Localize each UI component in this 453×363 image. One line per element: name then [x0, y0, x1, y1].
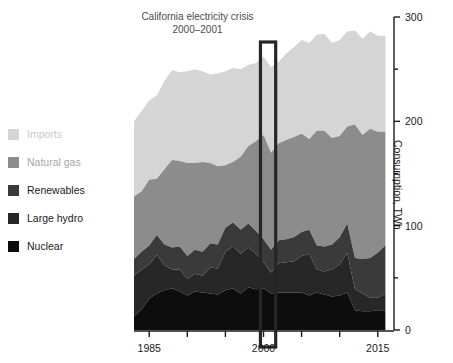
y-tick-label-200: 200 — [405, 115, 439, 127]
x-tick-label-1985: 1985 — [126, 342, 172, 354]
y-axis-label: Consumption, TWh — [392, 140, 404, 230]
legend-item-renewables[interactable]: Renewables — [8, 176, 128, 204]
legend-item-natural-gas[interactable]: Natural gas — [8, 148, 128, 176]
legend-label-imports: Imports — [27, 129, 62, 140]
legend-item-nuclear[interactable]: Nuclear — [8, 232, 128, 260]
legend-swatch-large-hydro — [8, 213, 19, 224]
y-tick-label-300: 300 — [405, 11, 439, 23]
crisis-annotation-line2: 2000–2001 — [110, 23, 285, 36]
legend-label-nuclear: Nuclear — [27, 241, 63, 252]
legend-swatch-renewables — [8, 185, 19, 196]
legend-label-large-hydro: Large hydro — [27, 213, 83, 224]
legend-label-renewables: Renewables — [27, 185, 85, 196]
y-tick-label-0: 0 — [405, 324, 439, 336]
y-tick-label-100: 100 — [405, 220, 439, 232]
legend-swatch-imports — [8, 129, 19, 140]
stacked-area-chart-figure: California electricity crisis 2000–2001 … — [0, 0, 453, 363]
legend-item-large-hydro[interactable]: Large hydro — [8, 204, 128, 232]
x-tick-label-2015: 2015 — [355, 342, 401, 354]
crisis-annotation-line1: California electricity crisis — [141, 11, 253, 22]
legend-item-imports[interactable]: Imports — [8, 120, 128, 148]
chart-legend: Imports Natural gas Renewables Large hyd… — [8, 120, 128, 260]
legend-label-natural-gas: Natural gas — [27, 157, 81, 168]
legend-swatch-nuclear — [8, 241, 19, 252]
x-tick-label-2000: 2000 — [241, 342, 287, 354]
legend-swatch-natural-gas — [8, 157, 19, 168]
crisis-annotation: California electricity crisis 2000–2001 — [110, 10, 285, 36]
